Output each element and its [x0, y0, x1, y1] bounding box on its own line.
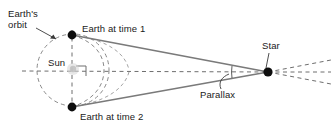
earths-orbit-label: Earth's orbit — [8, 9, 52, 30]
earth-dot-time-1 — [68, 31, 77, 40]
star-leader-line — [266, 53, 269, 68]
earth-at-time-1-label: Earth at time 1 — [82, 24, 145, 35]
sun-body — [70, 66, 76, 72]
parallax-diagram: Earth's orbit Earth at time 1 Earth at t… — [0, 0, 333, 136]
star-dot — [263, 67, 272, 76]
sun-label: Sun — [48, 58, 65, 69]
earths-orbit-label-line1: Earth's — [8, 8, 38, 19]
parallax-label: Parallax — [200, 90, 235, 101]
parallax-leader-line — [220, 74, 229, 89]
earths-orbit-label-line2: orbit — [8, 19, 27, 30]
star-ray-upper-dashed — [268, 60, 331, 72]
star-ray-lower-dashed — [268, 72, 331, 84]
earth-orbit-leader-arrowhead — [50, 35, 56, 39]
earth-at-time-2-label: Earth at time 2 — [80, 112, 143, 123]
earth-dot-time-2 — [68, 103, 77, 112]
sight-line-time-2 — [72, 72, 268, 107]
star-label: Star — [262, 41, 280, 52]
sight-line-time-1 — [72, 35, 268, 72]
